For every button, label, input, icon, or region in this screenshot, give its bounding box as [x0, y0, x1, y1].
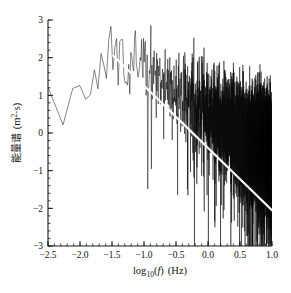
y-tick-label: −1 [33, 166, 43, 176]
x-tick-label: 1.0 [266, 250, 278, 260]
y-tick-label: 0 [38, 128, 43, 138]
y-tick-label: 3 [38, 15, 43, 25]
y-tick-label: 2 [38, 53, 43, 63]
x-tick-label: −0.5 [167, 250, 184, 260]
y-tick-label: −2 [33, 204, 43, 214]
ylabel-unit-close: ) [11, 102, 23, 106]
y-tick-label: −3 [33, 241, 43, 251]
ylabel-cjk: 能量谱 [10, 133, 22, 163]
x-tick-label: −1.0 [135, 250, 152, 260]
ylabel-unit-mid: ·s [11, 106, 22, 114]
energy-spectrum-chart: −2.5−2.0−1.5−1.0−0.50.00.51.0 −3−2−10123… [0, 0, 291, 293]
xlabel-log: log [133, 265, 147, 276]
x-tick-label: −2.5 [39, 250, 56, 260]
xlabel-unit: (Hz) [168, 265, 188, 277]
chart-figure: −2.5−2.0−1.5−1.0−0.50.00.51.0 −3−2−10123… [0, 0, 291, 293]
y-tick-label: 1 [38, 91, 43, 101]
x-tick-label: −2.0 [71, 250, 88, 260]
x-tick-label: −1.5 [103, 250, 120, 260]
xlabel-close: ) [160, 265, 164, 277]
x-tick-label: 0.5 [234, 250, 246, 260]
ylabel-unit-open: (m [11, 118, 23, 130]
x-tick-label: 0.0 [202, 250, 214, 260]
